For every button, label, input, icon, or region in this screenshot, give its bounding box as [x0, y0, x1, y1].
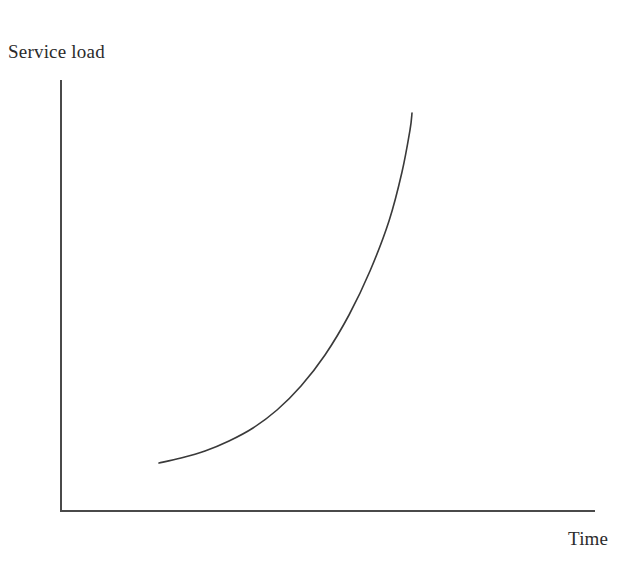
data-series-group: [159, 113, 412, 463]
chart-figure: Service load Time: [0, 0, 644, 564]
service-load-curve: [159, 113, 412, 463]
plot-area: [0, 0, 644, 564]
axes-group: [60, 80, 595, 512]
